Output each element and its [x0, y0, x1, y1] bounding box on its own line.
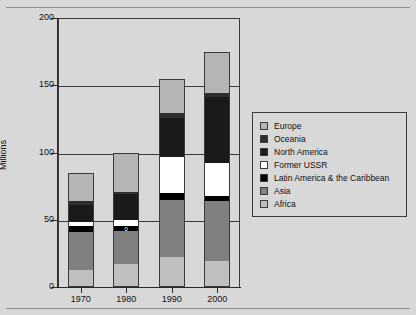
legend-item[interactable]: Former USSR — [260, 158, 400, 171]
bar-segment — [68, 226, 94, 231]
legend-item-label: Oceania — [274, 134, 306, 144]
legend-item-label: Former USSR — [274, 160, 327, 170]
bar-segment — [159, 200, 185, 258]
bar-segment — [204, 52, 230, 94]
y-tick-label: 150 — [14, 79, 54, 89]
bottom-divider-rule — [6, 308, 410, 309]
bar-segment — [159, 118, 185, 157]
bar-segment — [68, 222, 94, 226]
cropped-title-strip — [0, 0, 416, 8]
bar-segment — [204, 97, 230, 163]
x-tick — [172, 287, 173, 293]
bar-segment — [113, 194, 139, 220]
x-tick — [217, 287, 218, 293]
bar-segment — [68, 205, 94, 222]
legend-item[interactable]: Asia — [260, 184, 400, 197]
stacked-bar[interactable] — [68, 18, 94, 287]
bar-data-label: 0 — [113, 226, 139, 232]
bar-segment — [68, 173, 94, 201]
bar-segment — [68, 270, 94, 287]
legend-swatch-icon — [260, 148, 268, 156]
bar-segment — [204, 201, 230, 262]
y-tick-label: 0 — [14, 281, 54, 291]
bar-segment — [159, 113, 185, 117]
legend-item[interactable]: Europe — [260, 119, 400, 132]
bar-segment — [113, 192, 139, 195]
legend-item-label: Latin America & the Caribbean — [274, 173, 389, 183]
stacked-bar[interactable] — [204, 18, 230, 287]
legend-swatch-icon — [260, 161, 268, 169]
y-tick-label: 50 — [14, 214, 54, 224]
x-tick-label: 1990 — [152, 294, 192, 304]
x-tick-label: 1970 — [61, 294, 101, 304]
legend-swatch-icon — [260, 200, 268, 208]
x-axis-line — [57, 287, 241, 288]
bar-segment — [113, 220, 139, 227]
stacked-bar[interactable] — [159, 18, 185, 287]
stacked-bar[interactable]: 0 — [113, 18, 139, 287]
y-tick-label: 200 — [14, 12, 54, 22]
legend-swatch-icon — [260, 122, 268, 130]
legend-item[interactable]: Oceania — [260, 132, 400, 145]
bar-segment — [204, 163, 230, 195]
bar-segment — [113, 264, 139, 287]
legend-item[interactable]: Latin America & the Caribbean — [260, 171, 400, 184]
legend-swatch-icon — [260, 174, 268, 182]
legend-swatch-icon — [260, 135, 268, 143]
legend-swatch-icon — [260, 187, 268, 195]
legend-item-label: Africa — [274, 199, 296, 209]
legend-item[interactable]: North America — [260, 145, 400, 158]
x-tick-label: 2000 — [197, 294, 237, 304]
bar-segment — [68, 232, 94, 270]
bar-segment — [204, 196, 230, 201]
chart-figure: Millions 050100150200 1970198019902000 0… — [0, 0, 416, 315]
bar-segment — [204, 261, 230, 287]
legend-item-label: North America — [274, 147, 328, 157]
legend-item-label: Asia — [274, 186, 291, 196]
x-tick — [126, 287, 127, 293]
bar-segment — [159, 257, 185, 287]
bar-segment — [113, 153, 139, 192]
legend-item-label: Europe — [274, 121, 301, 131]
bar-segment — [113, 231, 139, 265]
y-tick-label: 100 — [14, 147, 54, 157]
bar-segment — [159, 79, 185, 114]
bar-segment — [204, 93, 230, 97]
bar-segment — [159, 157, 185, 193]
x-tick — [81, 287, 82, 293]
bar-segment — [68, 201, 94, 205]
x-tick-label: 1980 — [106, 294, 146, 304]
y-axis-title: Millions — [0, 140, 8, 170]
bar-segment — [159, 193, 185, 200]
chart-legend: EuropeOceaniaNorth AmericaFormer USSRLat… — [252, 112, 407, 217]
legend-item[interactable]: Africa — [260, 197, 400, 210]
